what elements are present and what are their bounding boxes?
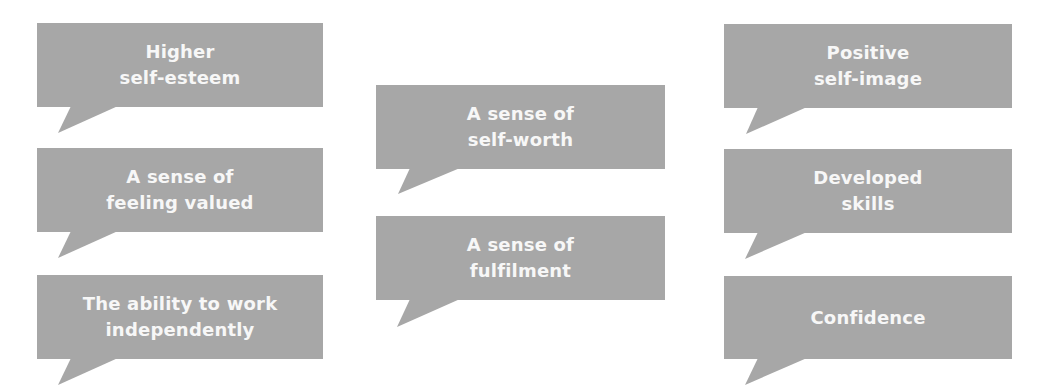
bubble-text: A sense of fulfilment (376, 216, 665, 300)
speech-tail-icon (0, 0, 1, 1)
bubble-text: Developed skills (724, 149, 1012, 233)
bubble-text: Higher self-esteem (37, 23, 323, 107)
bubble-text: A sense of self-worth (376, 85, 665, 169)
bubble-text: Positive self-image (724, 24, 1012, 108)
bubble-text: Confidence (724, 276, 1012, 359)
bubble-text: A sense of feeling valued (37, 148, 323, 232)
bubble-text: The ability to work independently (37, 275, 323, 359)
